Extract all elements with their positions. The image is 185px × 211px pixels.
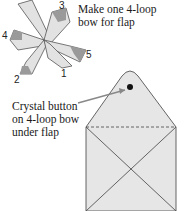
loop-number-3: 3 — [59, 0, 65, 11]
caption-top: Make one 4-loop bow for flap — [78, 3, 157, 29]
envelope — [86, 71, 176, 211]
loop-number-5: 5 — [86, 49, 92, 60]
loop-number-2: 2 — [14, 74, 20, 85]
loop-number-4: 4 — [2, 30, 8, 41]
loop-number-1: 1 — [61, 68, 67, 79]
caption-left: Crystal button on 4-loop bow under flap — [12, 100, 79, 139]
